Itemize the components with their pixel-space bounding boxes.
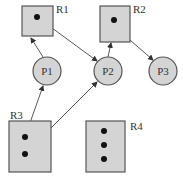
resource-r2: R2: [100, 3, 146, 42]
instance-dot: [34, 14, 40, 20]
instance-dot: [101, 156, 107, 162]
resource-r3: R3: [9, 109, 51, 172]
resource-r1: R1: [22, 3, 69, 36]
instance-dot: [101, 128, 107, 134]
instance-dot: [22, 151, 28, 157]
process-p3: P3: [149, 57, 177, 85]
edge-p2-to-r2: [108, 43, 111, 57]
process-label-p2: P2: [102, 65, 114, 77]
process-p2: P2: [94, 57, 122, 85]
edge-p1-to-r1: [31, 38, 43, 57]
resource-allocation-graph: R1 R2 P1 P2 P3 R3 R4: [0, 0, 183, 182]
resource-label-r2: R2: [133, 3, 146, 15]
instance-dot: [22, 134, 28, 140]
instance-dot: [101, 142, 107, 148]
resource-label-r1: R1: [56, 3, 69, 15]
process-label-p3: P3: [157, 65, 169, 77]
process-label-p1: P1: [41, 65, 53, 77]
resource-label-r3: R3: [10, 109, 23, 121]
instance-dot: [111, 17, 117, 23]
edge-r2-to-p3: [130, 40, 153, 60]
resource-label-r4: R4: [130, 120, 143, 132]
process-p1: P1: [33, 57, 61, 85]
resource-r4: R4: [86, 120, 143, 172]
